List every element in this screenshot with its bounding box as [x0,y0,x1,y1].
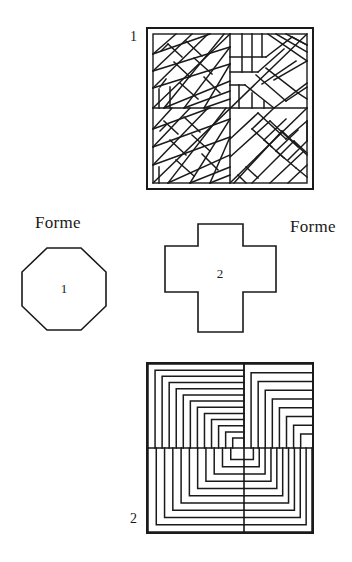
l-band [244,448,271,481]
l-band [244,448,265,474]
l-band [173,448,244,510]
greek-cross-svg: 2 [163,222,278,334]
l-band [231,448,244,460]
l-band [198,448,244,489]
l-band [279,408,312,448]
forme-label-right: Forme [290,218,336,235]
l-band [244,448,294,510]
quadrant-top-left [148,364,244,448]
shape-octagon: 1 [20,246,108,332]
octagon-svg: 1 [20,246,108,332]
l-band [244,448,259,467]
l-band [244,448,277,489]
quadrant-bottom-left [148,448,244,532]
l-band [206,448,244,481]
l-band [244,448,253,460]
l-band [226,432,244,448]
page-canvas: 1 [0,0,352,562]
l-band [301,434,312,448]
nested-l-quadrants-svg [146,362,314,534]
l-band [176,389,244,448]
l-band [244,448,312,532]
l-band [148,448,244,532]
l-band [287,417,313,449]
l-band [233,438,244,448]
figure-1-number: 1 [130,30,137,44]
l-band [212,420,244,448]
l-band [244,448,300,518]
greek-cross-number: 2 [217,266,224,281]
l-band [162,376,244,448]
shape-greek-cross: 2 [163,222,278,334]
l-band [214,448,244,474]
l-band [244,364,312,448]
quadrant-top-right [244,364,312,448]
l-band [219,426,244,448]
l-band [222,448,244,467]
l-band [251,373,312,448]
figure-1-pattern [146,27,314,190]
l-band [190,401,244,448]
l-band [258,382,312,449]
figure-2-pattern [146,362,314,534]
l-band [294,425,312,448]
l-band [181,448,244,503]
quadrant-bottom-right [244,448,312,532]
l-band [183,395,244,448]
l-band [272,399,312,448]
octagon-number: 1 [61,281,68,296]
l-band [165,448,244,518]
l-band [204,413,244,448]
l-band [244,448,289,503]
herringbone-parquet-svg [146,27,314,190]
forme-label-left: Forme [35,214,81,231]
figure-2-number: 2 [130,512,137,526]
